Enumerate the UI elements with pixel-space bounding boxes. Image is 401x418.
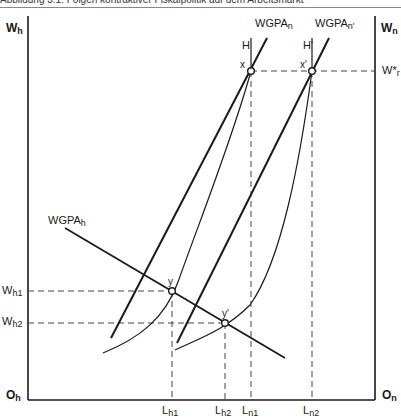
point-y-label: y — [168, 277, 173, 287]
labor-market-diagram — [0, 0, 401, 418]
left-axis-label: Wh — [6, 22, 23, 36]
l-h1-label: Lh1 — [162, 405, 178, 418]
right-axis-label: Wn — [381, 22, 398, 36]
point-x — [248, 68, 255, 75]
point-y-prime — [222, 320, 229, 327]
point-y-prime-label: y' — [222, 309, 229, 319]
wgpa-n-prime-line — [177, 38, 329, 343]
wgpa-n-line — [111, 38, 267, 338]
l-h2-label: Lh2 — [215, 405, 231, 418]
w-h1-label: Wh1 — [2, 285, 22, 298]
point-x-prime — [309, 68, 316, 75]
w-h2-label: Wh2 — [2, 316, 22, 329]
point-y — [169, 288, 176, 295]
l-n2-label: Ln2 — [303, 405, 319, 418]
wgpa-n-label: WGPAn — [255, 18, 293, 31]
point-x-prime-label: x' — [300, 60, 307, 70]
wgpa-n-prime-label: WGPAn' — [315, 18, 355, 31]
left-origin-label: Oh — [6, 389, 21, 403]
right-origin-label: On — [382, 389, 397, 403]
point-x-label: x — [240, 60, 245, 70]
wgpa-h-label: WGPAh — [48, 215, 86, 228]
l-n1-label: Ln1 — [242, 405, 258, 418]
w-r-star-label: W*r — [382, 65, 400, 78]
h-label: H — [242, 40, 250, 51]
h-prime-label: H' — [303, 40, 313, 51]
